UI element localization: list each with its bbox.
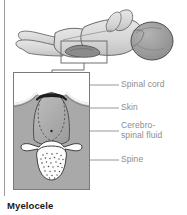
csf-pointer-dot <box>50 130 52 132</box>
label-spine: Spine <box>121 155 143 165</box>
leader-lines <box>90 85 119 160</box>
illustration-canvas <box>0 0 187 215</box>
cross-section-frame <box>14 73 90 190</box>
prone-infant-illustration <box>16 10 173 60</box>
callout-connector-line <box>52 63 84 73</box>
figure-myelocele: Spinal cord Skin Cerebro- spinal fluid S… <box>0 0 187 215</box>
label-spinal-cord: Spinal cord <box>121 80 165 90</box>
label-skin: Skin <box>121 103 138 113</box>
figure-caption: Myelocele <box>7 200 53 211</box>
label-cerebrospinal-fluid: Cerebro- spinal fluid <box>121 121 162 140</box>
